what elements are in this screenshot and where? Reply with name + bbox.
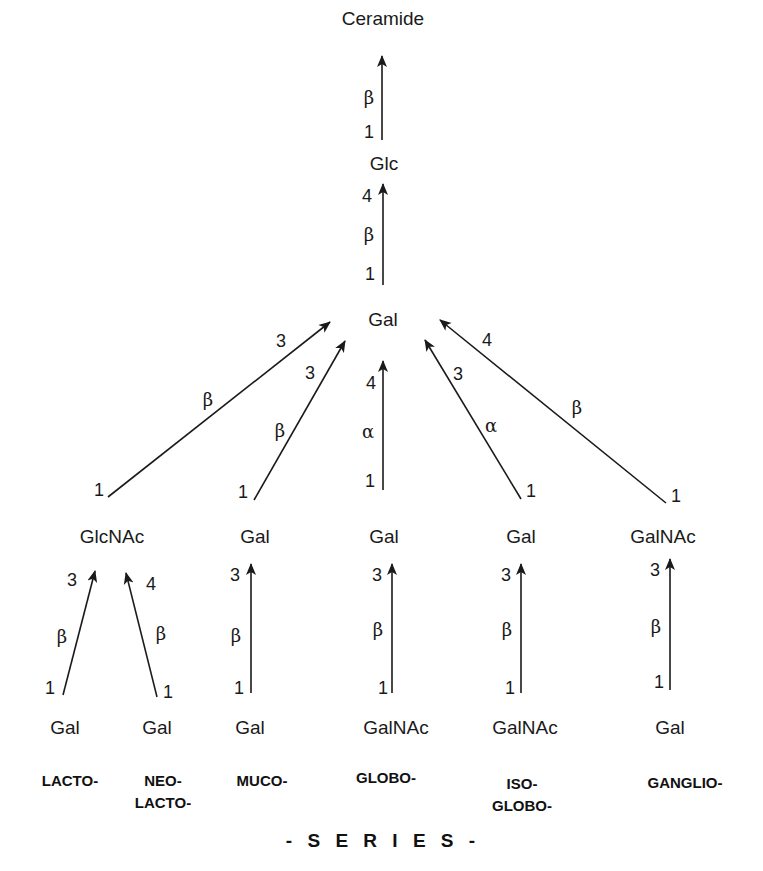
node-ganglio-gal-row3: Gal xyxy=(655,717,685,738)
anomer-isoglobo-row3: β xyxy=(502,619,512,640)
series-title: - S E R I E S - xyxy=(286,830,480,851)
series-label-globo: GLOBO- xyxy=(356,769,416,786)
pos-from-globo-row3: 1 xyxy=(378,678,388,698)
pos-to-neolacto: 4 xyxy=(146,574,156,594)
pos-from-glcnac-gal: 1 xyxy=(94,480,104,500)
series-label-lacto: LACTO- xyxy=(42,772,98,789)
anomer-muco-row3: β xyxy=(231,625,241,646)
pos-to-muco-row3: 3 xyxy=(230,565,240,585)
pos-to-glcnac-gal: 3 xyxy=(276,331,286,351)
glycosphingolipid-series-diagram: Ceramide β 1 Glc 4 β 1 Gal 3 β 1 3 β 1 4… xyxy=(0,0,763,871)
anomer-isoglobo-gal: α xyxy=(485,415,497,436)
anomer-neolacto: β xyxy=(156,623,166,644)
pos-to-ganglio-galnac: 4 xyxy=(482,330,492,350)
node-lacto-gal-row3: Gal xyxy=(50,717,80,738)
node-neolacto-gal-row3: Gal xyxy=(142,717,172,738)
node-lacto-glcnac: GlcNAc xyxy=(80,526,144,547)
pos-from-ganglio-galnac: 1 xyxy=(671,486,681,506)
pos-from-isoglobo-gal: 1 xyxy=(526,481,536,501)
series-label-ganglio: GANGLIO- xyxy=(648,774,723,791)
node-glc: Glc xyxy=(370,153,399,174)
node-muco-gal-row2: Gal xyxy=(240,526,270,547)
node-gal-core: Gal xyxy=(368,309,398,330)
anomer-muco-gal: β xyxy=(275,420,285,441)
node-isoglobo-galnac-row3: GalNAc xyxy=(492,717,557,738)
pos-from-muco-row3: 1 xyxy=(234,678,244,698)
pos-from-glc-ceramide: 1 xyxy=(364,122,374,142)
series-label-neolacto-line1: NEO- xyxy=(144,772,182,789)
node-ganglio-galnac-row2: GalNAc xyxy=(630,526,695,547)
pos-to-isoglobo-row3: 3 xyxy=(501,565,511,585)
series-label-isoglobo-line2: GLOBO- xyxy=(492,797,552,814)
anomer-globo-row3: β xyxy=(373,619,383,640)
node-muco-gal-row3: Gal xyxy=(235,717,265,738)
series-label-isoglobo-line1: ISO- xyxy=(507,775,538,792)
anomer-globo-gal: α xyxy=(362,421,374,442)
anomer-glc-ceramide: β xyxy=(364,87,374,108)
node-globo-gal-row2: Gal xyxy=(369,526,399,547)
arrow-ganglio-galnac-to-gal xyxy=(440,320,666,503)
pos-to-gal-glc: 4 xyxy=(362,186,372,206)
pos-from-ganglio-row3: 1 xyxy=(654,672,664,692)
pos-from-gal-glc: 1 xyxy=(365,264,375,284)
pos-to-globo-row3: 3 xyxy=(372,565,382,585)
node-globo-galnac-row3: GalNAc xyxy=(363,717,428,738)
pos-from-muco-gal: 1 xyxy=(238,482,248,502)
anomer-gal-glc: β xyxy=(364,224,374,245)
pos-from-neolacto: 1 xyxy=(163,682,173,702)
anomer-glcnac-gal: β xyxy=(203,389,213,410)
pos-from-globo-gal: 1 xyxy=(365,471,375,491)
anomer-ganglio-row3: β xyxy=(651,616,661,637)
pos-to-isoglobo-gal: 3 xyxy=(453,364,463,384)
series-label-muco: MUCO- xyxy=(237,772,288,789)
arrow-glcnac-to-gal xyxy=(108,322,330,497)
anomer-lacto: β xyxy=(57,626,67,647)
pos-to-lacto: 3 xyxy=(67,570,77,590)
pos-from-isoglobo-row3: 1 xyxy=(505,678,515,698)
node-isoglobo-gal-row2: Gal xyxy=(506,526,536,547)
pos-to-globo-gal: 4 xyxy=(366,373,376,393)
arrow-muco-gal-to-gal xyxy=(254,341,345,500)
node-ceramide: Ceramide xyxy=(342,8,424,29)
anomer-ganglio-galnac: β xyxy=(572,397,582,418)
pos-from-lacto: 1 xyxy=(45,678,55,698)
arrow-isoglobo-gal-to-gal xyxy=(425,340,521,499)
pos-to-ganglio-row3: 3 xyxy=(650,560,660,580)
pos-to-muco-gal: 3 xyxy=(305,363,315,383)
series-label-neolacto-line2: LACTO- xyxy=(135,794,191,811)
